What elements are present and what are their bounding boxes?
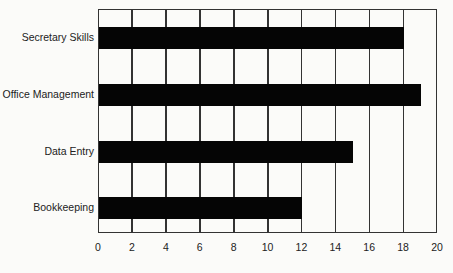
bar xyxy=(99,141,353,163)
x-tick-label: 18 xyxy=(397,241,409,253)
x-tick-label: 4 xyxy=(163,241,169,253)
bar xyxy=(99,27,404,49)
x-tick-label: 16 xyxy=(363,241,375,253)
x-tick-label: 2 xyxy=(129,241,135,253)
category-label: Office Management xyxy=(3,88,94,100)
category-label: Bookkeeping xyxy=(33,201,94,213)
x-tick-label: 12 xyxy=(296,241,308,253)
x-tick-label: 6 xyxy=(197,241,203,253)
plot-area xyxy=(98,9,437,233)
x-tick-label: 8 xyxy=(231,241,237,253)
x-tick-label: 20 xyxy=(431,241,443,253)
x-tick-label: 0 xyxy=(95,241,101,253)
category-label: Data Entry xyxy=(44,145,94,157)
bar xyxy=(99,197,302,219)
x-tick-label: 10 xyxy=(262,241,274,253)
x-tick-label: 14 xyxy=(329,241,341,253)
bar xyxy=(99,84,421,106)
category-label: Secretary Skills xyxy=(22,31,94,43)
